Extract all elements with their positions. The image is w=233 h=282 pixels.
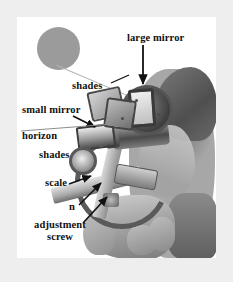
label-large-mirror: large mirror [127,32,184,44]
label-adjustment-screw: adjustment screw [20,219,100,242]
figure-panel: large mirror shades small mirror horizon… [17,17,216,258]
label-shades-lower: shades [39,149,69,161]
label-small-mirror: small mirror [22,104,80,116]
pointer-scale [69,176,91,184]
label-n: n [69,201,75,213]
pointer-shades-upper [111,75,129,83]
label-horizon: horizon [22,130,57,142]
label-scale: scale [45,177,67,189]
label-shades-upper: shades [72,80,102,92]
pointer-n [79,183,101,205]
